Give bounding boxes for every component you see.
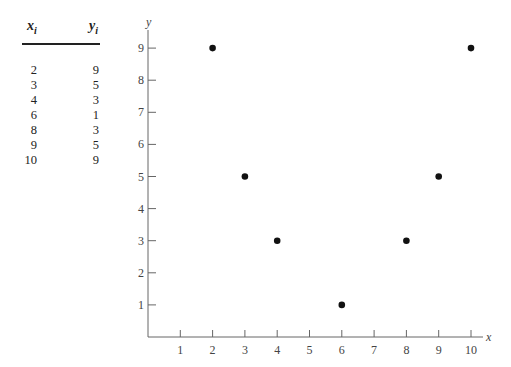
- x-tick-label: 3: [242, 343, 248, 357]
- x-tick-label: 9: [436, 343, 442, 357]
- y-tick-label: 4: [138, 202, 144, 216]
- y-tick-label: 2: [138, 266, 144, 280]
- x-tick-label: 5: [307, 343, 313, 357]
- data-point: [468, 45, 475, 52]
- x-tick-label: 1: [177, 343, 183, 357]
- x-tick-label: 2: [210, 343, 216, 357]
- y-tick-label: 7: [138, 105, 144, 119]
- data-point: [209, 45, 216, 52]
- y-tick-label: 6: [138, 137, 144, 151]
- y-tick-label: 5: [138, 170, 144, 184]
- x-tick-label: 4: [274, 343, 280, 357]
- y-tick-label: 3: [138, 234, 144, 248]
- x-tick-label: 7: [371, 343, 377, 357]
- data-point: [242, 173, 249, 180]
- data-point: [339, 302, 346, 309]
- y-tick-label: 1: [138, 298, 144, 312]
- data-point: [274, 237, 281, 244]
- y-tick-label: 8: [138, 73, 144, 87]
- y-axis-label: y: [145, 15, 152, 29]
- x-axis-label: x: [485, 330, 492, 344]
- data-point: [403, 237, 410, 244]
- scatter-plot: 12345678910123456789 x y: [0, 0, 511, 367]
- x-tick-label: 6: [339, 343, 345, 357]
- x-tick-label: 10: [465, 343, 477, 357]
- y-tick-label: 9: [138, 41, 144, 55]
- x-tick-label: 8: [403, 343, 409, 357]
- data-point: [435, 173, 442, 180]
